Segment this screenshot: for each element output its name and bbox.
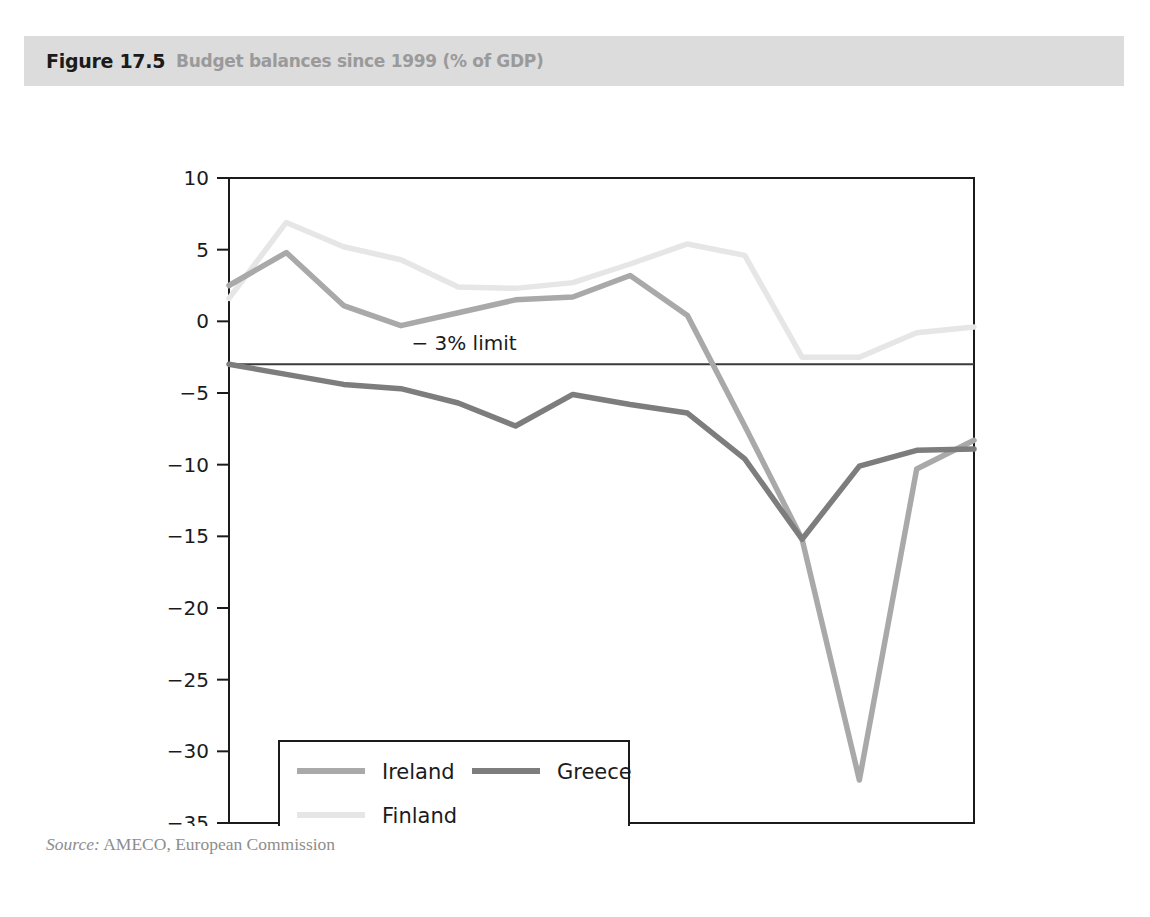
y-tick-label: 0 [196,309,209,333]
y-tick-label: −25 [167,668,209,692]
y-tick-label: −10 [167,453,209,477]
legend-label-finland: Finland [382,804,457,826]
y-axis: 1050−5−10−15−20−25−30−35 [167,166,229,826]
y-tick-label: 10 [184,166,209,190]
figure-header: Figure 17.5 Budget balances since 1999 (… [24,36,1124,86]
chart-legend: IrelandGreeceFinland [279,741,632,826]
deficit-limit-annotation: − 3% limit [229,331,974,364]
y-tick-label: −15 [167,524,209,548]
deficit-limit-label: − 3% limit [411,331,516,355]
series-line-ireland [229,253,974,780]
y-tick-label: −5 [180,381,209,405]
chart-region: 1050−5−10−15−20−25−30−35 199920002001200… [24,86,1124,826]
y-tick-label: −35 [167,811,209,826]
figure-number: Figure 17.5 [46,50,165,72]
legend-label-greece: Greece [557,760,632,784]
figure-caption: Budget balances since 1999 (% of GDP) [176,51,543,71]
series-line-finland [229,222,974,357]
y-tick-label: −20 [167,596,209,620]
legend-label-ireland: Ireland [382,760,455,784]
y-tick-label: −30 [167,739,209,763]
figure-card: Figure 17.5 Budget balances since 1999 (… [24,36,1124,872]
figure-source: Source: AMECO, European Commission [46,834,335,855]
series-line-greece [229,364,974,539]
source-text: AMECO, European Commission [103,834,335,854]
y-tick-label: 5 [196,238,209,262]
data-series-group [229,222,974,780]
line-chart: 1050−5−10−15−20−25−30−35 199920002001200… [24,86,1124,826]
source-prefix: Source: [46,834,100,854]
